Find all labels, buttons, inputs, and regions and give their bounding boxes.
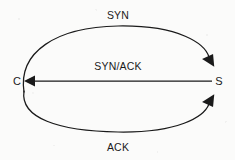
syn-ack-arrowhead-icon (24, 76, 35, 87)
node-client-label: C (13, 75, 21, 87)
syn-arc-path (23, 26, 209, 92)
node-server-label: S (215, 75, 223, 87)
syn-arrowhead-icon (202, 54, 218, 70)
ack-arrowhead-icon (202, 91, 218, 107)
flow-label-ack: ACK (107, 141, 129, 153)
flow-label-syn: SYN (107, 9, 129, 21)
ack-arc-path (24, 91, 209, 132)
flow-label-syn-ack: SYN/ACK (94, 60, 142, 72)
diagram-canvas: C S SYN SYN/ACK ACK (0, 0, 235, 160)
handshake-diagram (0, 0, 235, 160)
